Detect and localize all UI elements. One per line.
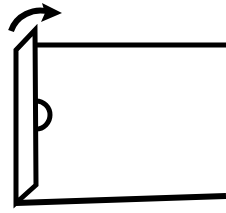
door-diagram-svg bbox=[0, 0, 226, 213]
door-diagram-canvas bbox=[0, 0, 226, 213]
door-panel bbox=[16, 30, 36, 203]
swing-arrow-shaft bbox=[11, 11, 50, 31]
bottom-floor-line bbox=[16, 196, 226, 203]
